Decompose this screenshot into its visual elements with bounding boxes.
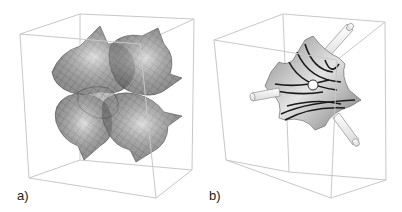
center-hole	[308, 80, 318, 90]
rod-lower-right	[333, 113, 361, 147]
panel-b-figure	[201, 0, 402, 212]
wireframe-surface-mesh	[52, 26, 182, 162]
panel-a-figure	[0, 0, 201, 212]
rod-left	[249, 88, 280, 101]
panel-a: a)	[0, 0, 201, 212]
panel-label-a: a)	[17, 189, 29, 202]
panel-label-b: b)	[209, 189, 221, 202]
panel-b: b)	[201, 0, 402, 212]
